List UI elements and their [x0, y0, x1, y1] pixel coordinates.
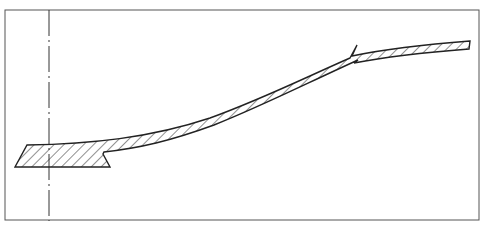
drawing-frame: [5, 10, 479, 220]
section-diagram: [0, 0, 485, 229]
hatched-section: [15, 41, 470, 167]
